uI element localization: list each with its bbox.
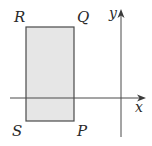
vertex-label-p: P [76,122,88,140]
coordinate-diagram: R Q S P y x [0,0,152,146]
vertex-label-q: Q [77,8,89,26]
vertex-label-s: S [12,122,22,140]
rectangle-pqrs [26,27,74,121]
x-axis-label: x [135,99,143,115]
y-axis-label: y [108,5,118,21]
vertex-label-r: R [13,8,25,26]
